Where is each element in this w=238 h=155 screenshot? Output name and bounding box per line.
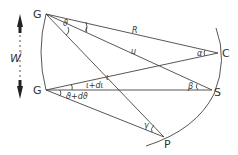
angle-iota-plus-diota: ι+dι <box>86 81 103 90</box>
angle-theta-plus-dtheta: ϑ+dϑ <box>66 92 88 101</box>
angle-arc-theta <box>66 27 69 35</box>
angle-arc-alpha <box>204 50 205 56</box>
line-G-P <box>46 14 164 137</box>
angle-theta: ϑ <box>63 19 68 28</box>
point-S: S <box>214 86 221 99</box>
point-C: C <box>222 47 230 60</box>
point-G-bottom: G <box>33 84 42 97</box>
angle-beta: β <box>187 82 193 91</box>
arrow-up-icon <box>17 14 23 27</box>
arrow-down-icon <box>17 86 23 99</box>
angle-alpha: α <box>197 49 203 58</box>
angle-arc-iota-d <box>71 84 72 90</box>
left-arc <box>41 14 46 90</box>
angle-arc-gamma <box>151 125 154 132</box>
line-G-S <box>46 14 212 90</box>
label-u: u <box>131 47 136 56</box>
label-iota-line: ι <box>106 73 109 82</box>
angle-gamma: γ <box>144 121 150 130</box>
angle-iota: ι <box>85 25 88 34</box>
point-G-top: G <box>33 8 42 21</box>
geometry-diagram: G G C S P R u ι ϑ ι α β γ ι+dι ϑ+dϑ W i <box>0 0 238 155</box>
right-arc <box>146 28 222 146</box>
point-P: P <box>164 138 171 151</box>
side-label-W-sub: i <box>20 49 22 56</box>
angle-arc-beta <box>196 84 198 90</box>
label-R: R <box>132 26 138 35</box>
